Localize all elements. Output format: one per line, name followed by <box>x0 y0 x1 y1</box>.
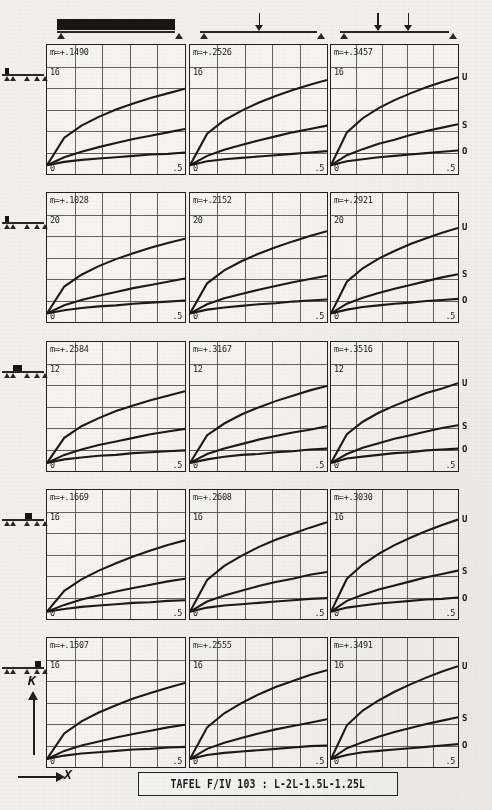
chart-cell: m=+.3516120.5 <box>330 341 459 472</box>
m-value-label: m=+.1669 <box>50 492 89 502</box>
curve-layer <box>331 342 458 471</box>
chart-cell: m=+.1490160.5 <box>46 44 186 175</box>
support-triangle-icon <box>449 33 457 39</box>
x-max-tick-label: .5 <box>173 608 182 618</box>
y-max-tick-label: 20 <box>50 215 59 225</box>
support-triangle-icon <box>24 224 30 229</box>
x-min-tick-label: 0 <box>50 756 55 766</box>
chart-cell: m=+.3457160.5 <box>330 44 459 175</box>
curve-tag-o: O <box>462 295 467 305</box>
y-max-tick-label: 16 <box>193 660 202 670</box>
curve-o <box>331 299 458 314</box>
chart-cell: m=+.1669160.5 <box>46 489 186 620</box>
m-value-label: m=+.2555 <box>193 640 232 650</box>
curve-layer <box>47 45 185 174</box>
curve-tag-o: O <box>462 146 467 156</box>
beam-deck <box>340 31 448 34</box>
support-triangle-icon <box>4 224 10 229</box>
x-max-tick-label: .5 <box>315 460 324 470</box>
tafel-sheet: m=+.1490160.5m=+.2526160.5m=+.3457160.5m… <box>0 0 492 810</box>
curve-tag-u: U <box>462 378 467 388</box>
beam-diagram <box>330 12 459 42</box>
y-max-tick-label: 16 <box>334 660 343 670</box>
distributed-load-block <box>5 216 10 223</box>
x-min-tick-label: 0 <box>334 460 339 470</box>
x-max-tick-label: .5 <box>446 608 455 618</box>
x-min-tick-label: 0 <box>193 756 198 766</box>
curve-u <box>331 383 458 463</box>
support-triangle-icon <box>34 224 40 229</box>
curve-layer <box>190 193 327 322</box>
y-max-tick-label: 16 <box>334 67 343 77</box>
curve-tag-u: U <box>462 661 467 671</box>
m-value-label: m=+.3457 <box>334 47 373 57</box>
x-min-tick-label: 0 <box>334 163 339 173</box>
m-value-label: m=+.2921 <box>334 195 373 205</box>
y-max-tick-label: 20 <box>334 215 343 225</box>
curve-tag-s: S <box>462 421 467 431</box>
curve-layer <box>331 45 458 174</box>
support-triangle-icon <box>10 669 16 674</box>
support-triangle-icon <box>34 76 40 81</box>
curve-tag-s: S <box>462 566 467 576</box>
curve-tag-s: S <box>462 269 467 279</box>
support-triangle-icon <box>10 521 16 526</box>
curve-tag-u: U <box>462 514 467 524</box>
curve-tag-o: O <box>462 444 467 454</box>
x-min-tick-label: 0 <box>334 756 339 766</box>
y-max-tick-label: 16 <box>50 660 59 670</box>
beam-diagram <box>0 54 46 84</box>
curve-layer <box>331 638 458 767</box>
x-max-tick-label: .5 <box>315 608 324 618</box>
curve-o <box>47 152 185 165</box>
support-triangle-icon <box>10 373 16 378</box>
distributed-load-block <box>57 19 175 30</box>
sheet-caption: TAFEL F/IV 103 : L-2L-1.5L-1.25L <box>138 772 398 796</box>
curve-layer <box>331 193 458 322</box>
chart-cell: m=+.1507160.5 <box>46 637 186 768</box>
curve-o <box>47 747 185 759</box>
curve-tag-s: S <box>462 120 467 130</box>
curve-layer <box>190 638 327 767</box>
x-min-tick-label: 0 <box>50 608 55 618</box>
y-max-tick-label: 16 <box>193 512 202 522</box>
x-min-tick-label: 0 <box>50 460 55 470</box>
row-header-diagram-2 <box>0 202 46 232</box>
x-max-tick-label: .5 <box>446 460 455 470</box>
x-min-tick-label: 0 <box>50 163 55 173</box>
support-triangle-icon <box>4 76 10 81</box>
chart-cell: m=+.2584120.5 <box>46 341 186 472</box>
caption-text: TAFEL F/IV 103 : L-2L-1.5L-1.25L <box>171 777 366 791</box>
x-min-tick-label: 0 <box>334 311 339 321</box>
support-triangle-icon <box>34 521 40 526</box>
curve-o <box>47 450 185 463</box>
curve-layer <box>190 342 327 471</box>
support-triangle-icon <box>4 669 10 674</box>
chart-cell: m=+.2526160.5 <box>189 44 328 175</box>
y-max-tick-label: 12 <box>50 364 59 374</box>
distributed-load-block <box>13 365 22 372</box>
row-header-diagram-4 <box>0 499 46 529</box>
m-value-label: m=+.2584 <box>50 344 89 354</box>
curve-o <box>190 151 327 165</box>
support-triangle-icon <box>10 224 16 229</box>
row-header-diagram-5 <box>0 647 46 677</box>
chart-cell: m=+.3167120.5 <box>189 341 328 472</box>
axis-shaft <box>33 697 35 755</box>
support-triangle-icon <box>4 373 10 378</box>
curve-s <box>47 579 185 612</box>
distributed-load-block <box>35 661 41 668</box>
x-max-tick-label: .5 <box>173 756 182 766</box>
column-header-diagram-udl <box>46 12 186 42</box>
m-value-label: m=+.2526 <box>193 47 232 57</box>
m-value-label: m=+.1028 <box>50 195 89 205</box>
y-max-tick-label: 16 <box>334 512 343 522</box>
support-triangle-icon <box>175 33 183 39</box>
x-max-tick-label: .5 <box>173 460 182 470</box>
m-value-label: m=+.3491 <box>334 640 373 650</box>
curve-o <box>331 150 458 165</box>
support-triangle-icon <box>24 521 30 526</box>
beam-deck <box>57 31 175 34</box>
x-max-tick-label: .5 <box>446 311 455 321</box>
x-max-tick-label: .5 <box>173 163 182 173</box>
